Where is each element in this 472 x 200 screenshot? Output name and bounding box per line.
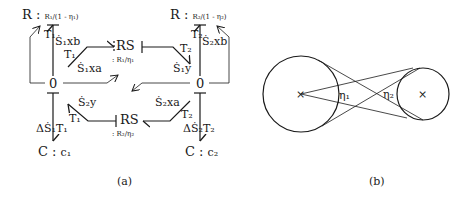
bond-RS-upper-to-S1y: T₂ Ṡ₁y	[142, 41, 192, 75]
svg-text:T₁: T₁	[56, 122, 68, 135]
center-line-left-up	[301, 68, 413, 94]
svg-text:Ṡ₂xa: Ṡ₂xa	[155, 95, 180, 109]
rs-element-upper: RS : R₁/η₁	[112, 38, 135, 64]
svg-text:T₁: T₁	[44, 28, 56, 41]
svg-text:Ṡ₂xb: Ṡ₂xb	[202, 34, 227, 48]
svg-text:ΔṠ₁: ΔṠ₁	[36, 121, 56, 135]
svg-text:: R₂/η₂: : R₂/η₂	[112, 130, 134, 138]
caption-a: (a)	[117, 175, 132, 188]
signal-left-to-R	[30, 26, 45, 83]
svg-text:T₂: T₂	[180, 42, 192, 55]
center-marker-left: ×	[296, 88, 305, 101]
capacitor-left: C : c₁	[38, 144, 71, 159]
signal-left-to-RS	[63, 75, 118, 83]
center-marker-right: ×	[418, 88, 427, 101]
svg-text:RS: RS	[116, 38, 135, 53]
bond-left-0-to-C: ΔṠ₁ T₁	[36, 93, 68, 141]
svg-text:: R₁/η₁: : R₁/η₁	[112, 56, 134, 64]
svg-text:ΔṠ₂: ΔṠ₂	[183, 121, 203, 135]
capacitor-right: C : c₂	[185, 144, 218, 159]
svg-text:C : c₂: C : c₂	[185, 144, 218, 159]
svg-text:T₂: T₂	[203, 122, 215, 135]
bond-graph-figure: R : R₁/(1 - η₁) R : R₂/(1 - η₂) T₁ Ṡ₁xb …	[0, 0, 472, 200]
svg-text:T₂: T₂	[191, 28, 203, 41]
svg-text:RS: RS	[120, 112, 139, 127]
svg-text:Ṡ₁y: Ṡ₁y	[173, 61, 192, 75]
bond-S2xa-to-RS-lower: Ṡ₂xa T₂	[143, 95, 193, 121]
angle-label-eta2: η₂	[383, 88, 394, 101]
bond-right-0-to-R: T₂ Ṡ₂xb	[191, 25, 227, 76]
svg-text:Ṡ₂y: Ṡ₂y	[78, 95, 97, 109]
svg-text:Ṡ₁xa: Ṡ₁xa	[77, 61, 102, 75]
junction-zero-right: 0	[196, 76, 204, 91]
resistor-top-right: R : R₂/(1 - η₂)	[170, 7, 227, 22]
panel-b-pulley-diagram: × × η₁ η₂ (b)	[263, 56, 449, 188]
angle-label-eta1: η₁	[339, 89, 350, 102]
svg-text:R : R₂/(1 - η₂): R : R₂/(1 - η₂)	[170, 7, 227, 22]
signal-right-to-RS	[132, 83, 190, 91]
svg-text:R : R₁/(1 - η₁): R : R₁/(1 - η₁)	[22, 7, 79, 22]
svg-text:C : c₁: C : c₁	[38, 144, 71, 159]
panel-a-bond-graph: R : R₁/(1 - η₁) R : R₂/(1 - η₂) T₁ Ṡ₁xb …	[22, 7, 229, 188]
svg-text:T₂: T₂	[181, 108, 193, 121]
bond-RS-lower-to-S2y: Ṡ₂y T₁	[68, 95, 116, 127]
junction-zero-left: 0	[49, 76, 57, 91]
resistor-top-left: R : R₁/(1 - η₁)	[22, 7, 79, 22]
svg-text:T₁: T₁	[69, 112, 81, 125]
svg-text:T₁: T₁	[64, 48, 76, 61]
caption-b: (b)	[369, 175, 385, 188]
svg-text:Ṡ₁xb: Ṡ₁xb	[55, 34, 80, 48]
